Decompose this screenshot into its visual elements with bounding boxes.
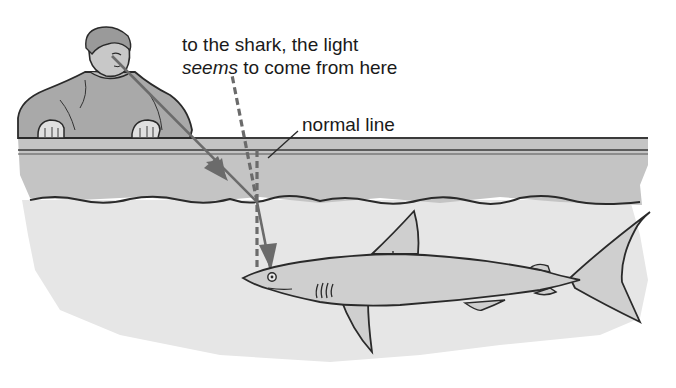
refraction-diagram: to the shark, the light seems to come fr… bbox=[0, 0, 676, 388]
normal-line-label: normal line bbox=[302, 113, 395, 136]
observer-boy bbox=[18, 27, 192, 138]
apparent-source-label-line1: to the shark, the light bbox=[182, 33, 397, 56]
apparent-source-label-rest: to come from here bbox=[238, 57, 397, 78]
apparent-source-label-line2: seems to come from here bbox=[182, 56, 397, 79]
boy-left-hand bbox=[38, 120, 64, 138]
tank-band bbox=[18, 138, 648, 205]
apparent-source-label: to the shark, the light seems to come fr… bbox=[182, 33, 397, 79]
seems-italic: seems bbox=[182, 57, 238, 78]
